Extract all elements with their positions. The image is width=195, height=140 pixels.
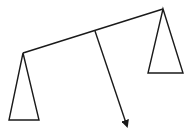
beam (23, 9, 163, 53)
left-support (9, 53, 39, 120)
force-arrow (95, 31, 127, 126)
beam-support-diagram (0, 0, 195, 140)
right-support (148, 9, 183, 73)
